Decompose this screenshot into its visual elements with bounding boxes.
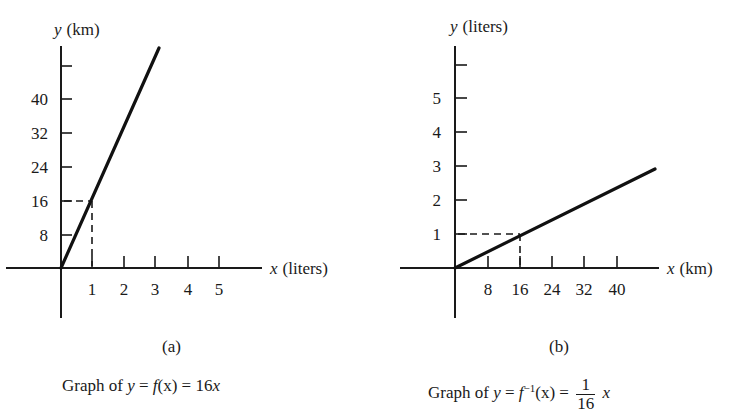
y-tick-label: 3 (433, 157, 442, 176)
panel-label-a: (a) (162, 337, 181, 357)
x-tick-label: 4 (184, 280, 193, 299)
y-tick-label: 4 (433, 123, 442, 142)
y-axis-label-b: y(liters) (448, 17, 508, 36)
y-tick-label: 40 (31, 90, 48, 109)
x-tick-label: 1 (88, 280, 97, 299)
y-tick-label: 32 (31, 124, 48, 143)
panel-label-b: (b) (549, 337, 569, 357)
x-ticks-a (92, 256, 219, 268)
line-y-16x (61, 48, 159, 268)
x-ticks-b (488, 256, 617, 268)
caption-a: Graph of y = f(x) = 16x (62, 376, 220, 396)
x-axis-label-a: x(liters) (269, 259, 328, 278)
x-tick-label: 16 (512, 280, 529, 299)
y-tick-label: 16 (31, 192, 48, 211)
x-tick-label: 3 (151, 280, 160, 299)
x-axis-label-b: x(km) (666, 259, 713, 278)
y-tick-label: 5 (433, 89, 442, 108)
x-tick-label: 40 (609, 280, 626, 299)
x-tick-label: 24 (544, 280, 562, 299)
caption-b: Graph of y = f−1(x) = 1 16 x (428, 376, 610, 410)
y-tick-label: 2 (433, 191, 442, 210)
line-y-x-over-16 (455, 169, 655, 268)
y-axis-label-a: y(km) (52, 20, 100, 39)
y-tick-label: 8 (40, 226, 49, 245)
x-tick-label: 2 (120, 280, 129, 299)
chart-a: 8 16 24 32 40 1 2 3 4 5 y(km) x(liters) (6, 20, 328, 318)
y-tick-label: 24 (31, 158, 49, 177)
x-tick-label: 32 (576, 280, 593, 299)
fraction: 1 16 (576, 376, 595, 410)
chart-b: 1 2 3 4 5 8 16 24 32 40 y(liters) x(km) (400, 17, 713, 318)
x-tick-label: 5 (215, 280, 224, 299)
x-tick-label: 8 (484, 280, 493, 299)
y-tick-label: 1 (433, 225, 442, 244)
figure-canvas: 8 16 24 32 40 1 2 3 4 5 y(km) x(liters) (0, 0, 729, 410)
y-ticks-b (455, 65, 467, 234)
y-ticks-a (61, 66, 72, 235)
